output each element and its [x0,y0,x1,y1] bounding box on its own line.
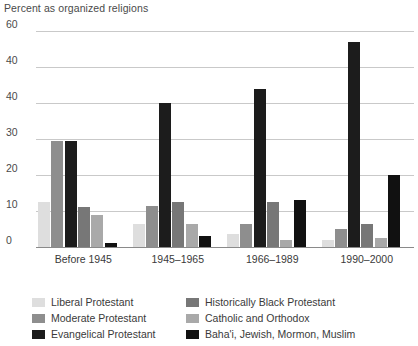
bar-group [225,31,320,247]
x-axis-line [36,247,414,248]
bar-group [320,31,415,247]
legend-item[interactable]: Catholic and Orthodox [186,310,412,326]
bar [280,240,292,247]
legend-swatch-icon [32,314,45,323]
plot-area [36,31,414,247]
bar [335,229,347,247]
y-axis-tick-labels: 6040403020100 [0,0,34,346]
bar [254,89,266,247]
legend-label: Moderate Protestant [51,313,146,324]
bar [294,200,306,247]
bar-group [36,31,131,247]
y-axis-tick-label: 30 [6,127,34,138]
bar [361,224,373,247]
bar [133,224,145,247]
legend-swatch-icon [186,314,199,323]
bar [78,207,90,247]
y-axis-tick-label: 40 [6,55,34,66]
bar [172,202,184,247]
bar [146,206,158,247]
bar-chart: Percent as organized religions 604040302… [0,0,418,346]
legend-label: Liberal Protestant [51,297,133,308]
bar [322,240,334,247]
legend-item[interactable]: Evangelical Protestant [32,326,184,342]
bar [348,42,360,247]
bar [65,141,77,247]
bar [91,215,103,247]
legend-label: Baha'i, Jewish, Mormon, Muslim [205,329,355,340]
bar [159,103,171,247]
bar [38,202,50,247]
bar [267,202,279,247]
y-axis-tick-label: 40 [6,91,34,102]
legend-swatch-icon [32,298,45,307]
x-axis-category-label: 1945–1965 [131,253,226,265]
legend-swatch-icon [186,298,199,307]
legend-label: Catholic and Orthodox [205,313,309,324]
legend-item[interactable]: Baha'i, Jewish, Mormon, Muslim [186,326,412,342]
bar [199,236,211,247]
y-axis-tick-label: 60 [6,19,34,30]
x-axis-category-label: Before 1945 [36,253,131,265]
x-axis-category-label: 1990–2000 [320,253,415,265]
y-axis-tick-label: 10 [6,199,34,210]
legend-item[interactable]: Liberal Protestant [32,294,184,310]
bar [388,175,400,247]
bar-group [131,31,226,247]
x-axis-category-label: 1966–1989 [225,253,320,265]
legend-item[interactable]: Historically Black Protestant [186,294,412,310]
y-axis-tick-label: 0 [6,235,34,246]
legend-swatch-icon [186,330,199,339]
bar [240,224,252,247]
legend-label: Historically Black Protestant [205,297,335,308]
legend-label: Evangelical Protestant [51,329,155,340]
y-axis-tick-label: 20 [6,163,34,174]
bar [227,234,239,247]
bar [375,238,387,247]
chart-legend: Liberal ProtestantHistorically Black Pro… [32,294,412,342]
legend-item[interactable]: Moderate Protestant [32,310,184,326]
bar [186,224,198,247]
bar [51,141,63,247]
legend-swatch-icon [32,330,45,339]
